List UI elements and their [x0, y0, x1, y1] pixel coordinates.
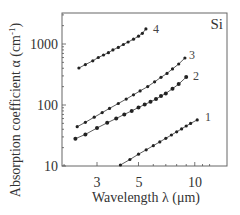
data-point: [84, 121, 87, 124]
data-point: [143, 103, 147, 107]
data-point: [159, 76, 162, 79]
data-point: [84, 63, 87, 66]
data-point: [152, 144, 155, 147]
data-point: [189, 122, 192, 125]
data-point: [76, 125, 79, 128]
data-point: [175, 130, 178, 133]
data-point: [127, 40, 130, 43]
curve-label-4: 4: [153, 22, 159, 36]
curve-label-1: 1: [205, 110, 211, 124]
data-point: [141, 32, 144, 35]
data-point: [159, 94, 163, 98]
data-point: [111, 48, 114, 51]
data-point: [132, 38, 135, 41]
series-2: [73, 75, 188, 141]
data-point: [139, 89, 142, 92]
data-point: [185, 124, 188, 127]
curve-label-3: 3: [189, 48, 195, 62]
material-label: Si: [210, 16, 223, 32]
data-point: [119, 163, 122, 166]
y-tick-100: 100: [37, 98, 58, 113]
data-point: [73, 137, 77, 141]
data-point: [165, 72, 168, 75]
data-point: [108, 107, 111, 110]
data-point: [137, 106, 141, 110]
chart: 1000 100 10 3 5 10 Wavelength λ (μm) Abs…: [0, 0, 240, 215]
data-point: [137, 35, 140, 38]
data-point: [93, 116, 96, 119]
data-point: [105, 121, 109, 125]
data-point: [130, 109, 134, 113]
data-point: [177, 82, 181, 86]
data-point: [145, 148, 148, 151]
series-3: [76, 56, 187, 128]
data-point: [132, 93, 135, 96]
data-point: [107, 51, 110, 54]
series-1: [119, 118, 199, 166]
y-axis-title: Absorption coefficient α (cm-1): [7, 22, 24, 197]
data-point: [177, 62, 180, 65]
data-point: [164, 91, 168, 95]
data-point: [149, 100, 153, 104]
x-tick-3: 3: [94, 175, 101, 190]
data-point: [196, 118, 199, 121]
data-point: [158, 140, 161, 143]
data-point: [146, 85, 149, 88]
data-point: [180, 127, 183, 130]
data-series: [73, 27, 198, 166]
data-point: [153, 80, 156, 83]
y-tick-10: 10: [44, 159, 58, 174]
data-point: [164, 137, 167, 140]
data-point: [183, 56, 186, 59]
data-point: [171, 87, 175, 91]
curve-label-2: 2: [193, 69, 199, 83]
data-point: [122, 112, 126, 116]
data-point: [117, 46, 120, 49]
x-tick-5: 5: [136, 175, 143, 190]
data-point: [128, 158, 131, 161]
data-point: [171, 67, 174, 70]
data-point: [95, 126, 99, 130]
data-point: [154, 97, 158, 101]
x-axis-title: Wavelength λ (μm): [92, 190, 200, 206]
plot-frame: [62, 13, 227, 166]
data-point: [122, 43, 125, 46]
data-point: [83, 132, 87, 136]
data-point: [102, 53, 105, 56]
y-tick-1000: 1000: [30, 37, 58, 52]
data-point: [170, 133, 173, 136]
x-tick-10: 10: [188, 175, 202, 190]
data-point: [97, 56, 100, 59]
data-point: [117, 102, 120, 105]
data-point: [114, 117, 118, 121]
data-point: [77, 66, 80, 69]
data-point: [184, 75, 188, 79]
data-point: [144, 27, 147, 30]
data-point: [101, 111, 104, 114]
data-point: [137, 153, 140, 156]
data-point: [125, 98, 128, 101]
data-point: [91, 59, 94, 62]
series-4: [77, 27, 147, 69]
